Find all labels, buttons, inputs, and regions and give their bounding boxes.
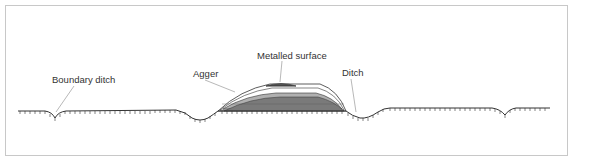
- label-agger: Agger: [193, 69, 218, 79]
- leader-ditch: [351, 79, 356, 112]
- leader-metalled-surface: [280, 61, 282, 82]
- leader-boundary-ditch: [56, 86, 74, 112]
- agger-body: [218, 84, 346, 111]
- leader-agger: [205, 80, 235, 92]
- label-boundary-ditch: Boundary ditch: [52, 75, 115, 85]
- label-metalled-surface: Metalled surface: [257, 51, 327, 61]
- label-ditch: Ditch: [342, 68, 364, 78]
